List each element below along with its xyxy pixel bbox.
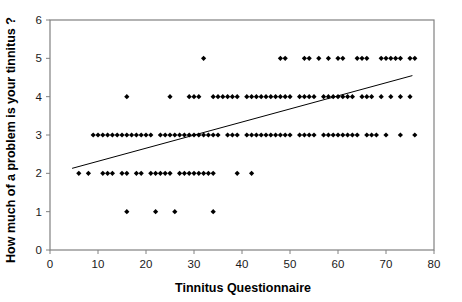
x-tick-label: 70 <box>380 258 393 270</box>
y-tick-label: 5 <box>36 52 42 64</box>
x-tick-label: 30 <box>188 258 201 270</box>
y-tick-label: 1 <box>36 206 42 218</box>
plot-background <box>0 0 462 302</box>
y-tick-label: 6 <box>36 14 42 26</box>
y-tick-label: 0 <box>36 244 42 256</box>
y-tick-label: 4 <box>36 91 43 103</box>
y-axis-title: How much of a problem is your tinnitus ? <box>4 17 18 263</box>
x-tick-label: 80 <box>428 258 441 270</box>
scatter-plot-figure: 0123456 01020304050607080 Tinnitus Quest… <box>0 0 462 302</box>
y-tick-label: 2 <box>36 167 42 179</box>
x-tick-label: 20 <box>140 258 153 270</box>
x-tick-label: 0 <box>47 258 53 270</box>
x-tick-label: 40 <box>236 258 249 270</box>
x-tick-label: 10 <box>92 258 105 270</box>
chart-canvas: 0123456 01020304050607080 Tinnitus Quest… <box>0 0 462 302</box>
x-tick-label: 60 <box>332 258 345 270</box>
x-tick-label: 50 <box>284 258 297 270</box>
y-tick-label: 3 <box>36 129 42 141</box>
x-axis-title: Tinnitus Questionnaire <box>175 281 311 295</box>
